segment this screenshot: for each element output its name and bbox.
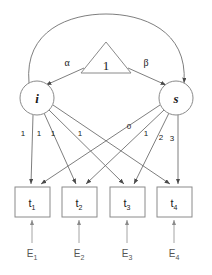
error-node-e1: E1 [27,220,38,261]
latent-label-s: s [172,91,178,106]
latent-label-i: i [35,91,39,106]
loading-label-s-t1: 0 [127,122,132,131]
observed-sub-t1: 1 [32,204,36,211]
error-sub-e1: 1 [33,254,37,261]
latent-node-s: s [159,81,193,115]
observed-node-t4: t4 [157,187,192,217]
svg-text:E4: E4 [169,248,180,261]
svg-text:E1: E1 [27,248,38,261]
svg-text:E2: E2 [74,248,85,261]
loading-label-s-t3: 2 [159,133,164,142]
loading-s-t1: 0 [41,105,160,184]
latent-node-i: i [20,81,54,115]
observed-node-t2: t2 [62,187,97,217]
loading-label-i-t1: 1 [21,129,26,138]
svg-text:E3: E3 [122,248,133,261]
constant-triangle: 1 [81,42,131,73]
observed-node-t1: t1 [15,187,50,217]
loading-label-i-t3: 1 [51,129,56,138]
observed-sub-t4: 4 [174,204,178,211]
loading-s-t4: 3 [170,115,178,184]
loading-i-t1: 1 [21,115,33,184]
error-node-e4: E4 [169,220,180,261]
error-sub-e4: 4 [175,254,179,261]
loading-label-s-t4: 3 [170,134,175,143]
constant-label: 1 [103,58,110,73]
loading-i-t3: 1 [49,110,124,184]
alpha-label: α [64,57,70,68]
loading-label-s-t2: 1 [144,129,149,138]
loading-label-i-t2: 1 [37,129,42,138]
observed-sub-t3: 3 [127,204,131,211]
observed-sub-t2: 2 [79,204,83,211]
observed-node-t3: t3 [110,187,145,217]
sem-diagram-canvas: 1 α β 1 1 1 1 0 [0,0,212,275]
error-sub-e3: 3 [128,254,132,261]
error-node-e3: E3 [122,220,133,261]
error-sub-e2: 2 [80,254,84,261]
mean-path-beta: β [128,57,166,85]
error-node-e2: E2 [74,220,85,261]
beta-label: β [143,57,148,68]
mean-path-alpha: α [46,57,84,85]
loading-label-i-t4: 1 [78,129,83,138]
sem-path-diagram: 1 α β 1 1 1 1 0 [0,0,212,275]
loading-s-t3: 2 [134,113,169,184]
